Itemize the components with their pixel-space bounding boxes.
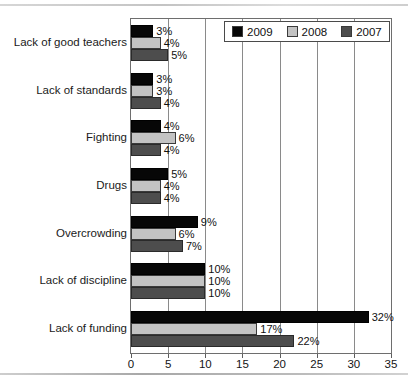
bar-chart: Lack of good teachersLack of standardsFi… <box>0 0 408 380</box>
bar-2008-0 <box>131 37 161 49</box>
bar-value-label: 3% <box>154 73 172 85</box>
bar-value-label: 6% <box>177 132 195 144</box>
bar-value-label: 5% <box>169 49 187 61</box>
legend-label: 2007 <box>356 26 382 38</box>
bar-value-label: 3% <box>154 25 172 37</box>
bar-2009-2 <box>131 120 161 132</box>
legend-swatch-icon <box>341 26 352 37</box>
category-label: Lack of discipline <box>39 274 127 286</box>
bar-2009-3 <box>131 168 168 180</box>
bar-2009-0 <box>131 25 153 37</box>
category-label: Drugs <box>96 179 127 191</box>
bar-2007-5 <box>131 287 205 299</box>
bar-value-label: 7% <box>184 240 202 252</box>
x-axis: 05101520253035 <box>130 354 392 374</box>
x-tick-label: 0 <box>128 358 134 371</box>
bar-value-label: 4% <box>162 37 180 49</box>
legend-item-2009[interactable]: 2009 <box>232 26 273 38</box>
bar-2007-2 <box>131 144 161 156</box>
bar-2008-3 <box>131 180 161 192</box>
bar-value-label: 17% <box>258 323 282 335</box>
bar-value-label: 4% <box>162 120 180 132</box>
bar-2007-1 <box>131 97 161 109</box>
bar-2007-3 <box>131 192 161 204</box>
legend-label: 2008 <box>302 26 328 38</box>
bar-value-label: 3% <box>154 85 172 97</box>
bar-2008-4 <box>131 228 176 240</box>
bar-value-label: 4% <box>162 144 180 156</box>
chart-legend: 200920082007 <box>224 21 390 42</box>
bar-2009-5 <box>131 263 205 275</box>
bar-2009-1 <box>131 73 153 85</box>
legend-item-2008[interactable]: 2008 <box>287 26 328 38</box>
bar-value-label: 10% <box>206 287 230 299</box>
bar-value-label: 10% <box>206 275 230 287</box>
legend-swatch-icon <box>287 26 298 37</box>
bar-value-label: 32% <box>370 311 394 323</box>
x-tick-label: 5 <box>165 358 171 371</box>
legend-label: 2009 <box>247 26 273 38</box>
category-label: Lack of good teachers <box>14 36 127 48</box>
bar-value-label: 4% <box>162 180 180 192</box>
bar-2009-6 <box>131 311 369 323</box>
bar-value-label: 6% <box>177 228 195 240</box>
x-tick-label: 35 <box>385 358 398 371</box>
bar-2007-4 <box>131 240 183 252</box>
x-tick-label: 10 <box>199 358 212 371</box>
bar-value-label: 5% <box>169 168 187 180</box>
bar-series-container: 3%4%5%3%3%4%4%6%4%5%4%4%9%6%7%10%10%10%3… <box>131 19 391 353</box>
bar-2008-5 <box>131 275 205 287</box>
bar-value-label: 10% <box>206 263 230 275</box>
x-tick-label: 25 <box>310 358 323 371</box>
bar-2008-1 <box>131 85 153 97</box>
x-tick-label: 30 <box>347 358 360 371</box>
category-label: Lack of standards <box>36 84 127 96</box>
bar-2007-6 <box>131 335 294 347</box>
category-label: Fighting <box>86 131 127 143</box>
legend-item-2007[interactable]: 2007 <box>341 26 382 38</box>
bar-2007-0 <box>131 49 168 61</box>
category-label: Overcrowding <box>56 227 127 239</box>
bar-2008-6 <box>131 323 257 335</box>
bar-value-label: 4% <box>162 192 180 204</box>
bar-value-label: 22% <box>295 335 319 347</box>
category-axis-labels: Lack of good teachersLack of standardsFi… <box>0 18 127 354</box>
x-tick-label: 15 <box>236 358 249 371</box>
category-label: Lack of funding <box>49 322 127 334</box>
legend-swatch-icon <box>232 26 243 37</box>
bar-2009-4 <box>131 216 198 228</box>
bar-2008-2 <box>131 132 176 144</box>
bar-value-label: 4% <box>162 97 180 109</box>
bar-value-label: 9% <box>199 216 217 228</box>
x-tick-label: 20 <box>273 358 286 371</box>
